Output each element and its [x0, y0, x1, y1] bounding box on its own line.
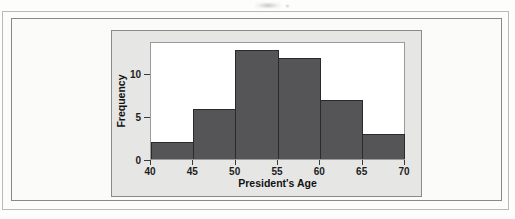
x-tick-label-40: 40	[144, 166, 155, 177]
x-axis-title: President's Age	[150, 177, 405, 189]
figure-outer-border: Frequency 0 5 10	[2, 11, 509, 210]
histogram-bar	[193, 109, 236, 159]
x-axis: 40 45 50 55 60 65 70	[150, 160, 405, 170]
x-tick-45	[192, 160, 193, 165]
scan-artifact-dot-icon	[285, 4, 290, 8]
histogram-bar	[151, 142, 194, 159]
x-tick-label-45: 45	[187, 166, 198, 177]
scanned-page: Frequency 0 5 10	[0, 0, 515, 219]
x-tick-60	[319, 160, 320, 165]
histogram-bars	[151, 43, 404, 159]
x-tick-label-70: 70	[398, 166, 409, 177]
x-tick-label-60: 60	[314, 166, 325, 177]
x-tick-label-65: 65	[356, 166, 367, 177]
y-tick-label-5: 5	[135, 112, 141, 123]
y-tick-label-0: 0	[135, 155, 141, 166]
x-tick-40	[150, 160, 151, 165]
x-tick-label-50: 50	[229, 166, 240, 177]
y-axis-title: Frequency	[114, 42, 128, 160]
histogram-chart-panel: Frequency 0 5 10	[111, 30, 422, 197]
plot-frame	[150, 42, 405, 160]
x-tick-label-55: 55	[271, 166, 282, 177]
figure-inner-border: Frequency 0 5 10	[11, 18, 502, 201]
y-tick-label-10: 10	[130, 69, 141, 80]
x-tick-65	[362, 160, 363, 165]
x-tick-70	[404, 160, 405, 165]
y-axis: 0 5 10	[142, 42, 150, 160]
histogram-bar	[278, 58, 321, 159]
scan-artifact-icon	[255, 2, 281, 9]
x-tick-55	[277, 160, 278, 165]
histogram-bar	[362, 134, 405, 159]
x-tick-50	[235, 160, 236, 165]
histogram-bar	[235, 50, 278, 159]
plot-area	[151, 43, 404, 159]
y-axis-title-label: Frequency	[115, 74, 127, 127]
histogram-bar	[320, 100, 363, 159]
